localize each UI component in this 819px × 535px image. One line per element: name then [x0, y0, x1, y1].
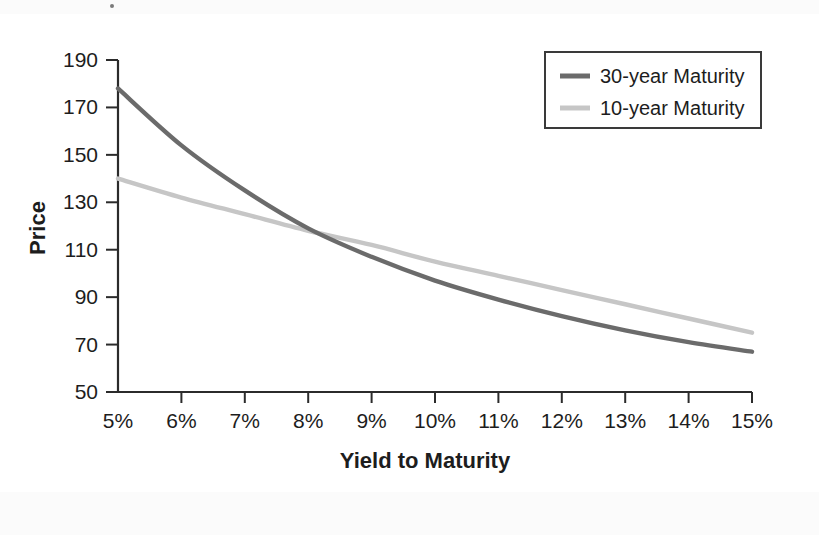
x-tick-label: 8% [293, 409, 323, 432]
y-tick-label: 170 [63, 95, 98, 118]
legend-label-2: 10-year Maturity [600, 97, 745, 119]
y-tick-label: 130 [63, 190, 98, 213]
chart-legend: 30-year Maturity10-year Maturity [545, 52, 761, 128]
series-line-2 [118, 179, 752, 333]
x-tick-label: 6% [166, 409, 196, 432]
x-tick-label: 7% [230, 409, 260, 432]
x-tick-label: 12% [541, 409, 583, 432]
y-tick-label: 70 [75, 333, 98, 356]
y-tick-label: 150 [63, 143, 98, 166]
legend-label-1: 30-year Maturity [600, 65, 745, 87]
y-tick-label: 90 [75, 285, 98, 308]
x-tick-label: 15% [731, 409, 773, 432]
chart-page: 507090110130150170190 5%6%7%8%9%10%11%12… [0, 0, 819, 535]
x-tick-label: 10% [414, 409, 456, 432]
x-tick-label: 9% [356, 409, 386, 432]
y-axis-title: Price [25, 201, 50, 255]
y-tick-label: 50 [75, 380, 98, 403]
x-tick-label: 5% [103, 409, 133, 432]
y-tick-label: 190 [63, 48, 98, 71]
y-tick-label: 110 [65, 238, 98, 261]
x-tick-label: 13% [604, 409, 646, 432]
x-tick-label: 14% [668, 409, 710, 432]
price-vs-yield-chart: 507090110130150170190 5%6%7%8%9%10%11%12… [0, 0, 819, 535]
x-axis-title: Yield to Maturity [340, 448, 511, 473]
y-axis-ticks: 507090110130150170190 [63, 48, 118, 403]
x-tick-label: 11% [478, 409, 518, 432]
x-axis-ticks: 5%6%7%8%9%10%11%12%13%14%15% [103, 392, 773, 432]
